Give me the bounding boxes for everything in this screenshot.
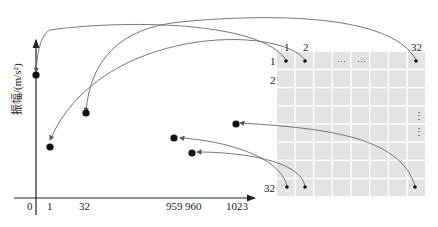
grid-cell	[296, 143, 313, 160]
grid-cell	[408, 143, 425, 160]
grid-cell	[389, 143, 406, 160]
x-tick-1023: 1023	[226, 201, 248, 212]
row-label-32: 32	[264, 183, 275, 194]
grid-cell	[333, 161, 350, 178]
grid-cell	[296, 70, 313, 87]
grid-cell	[352, 107, 369, 124]
grid-cell	[389, 88, 406, 105]
col-label-2: 2	[303, 42, 309, 53]
grid-cell	[370, 125, 387, 142]
row-label-1: 1	[270, 56, 276, 67]
grid-cell	[314, 107, 331, 124]
grid-cell	[333, 88, 350, 105]
grid-cell	[370, 107, 387, 124]
grid-cell	[370, 143, 387, 160]
y-axis-label: 振幅/(m/s²)	[8, 63, 24, 115]
diagram-canvas	[0, 0, 438, 227]
grid-cell	[277, 88, 294, 105]
grid-cell	[277, 107, 294, 124]
grid-cell	[370, 179, 387, 196]
point-32	[82, 109, 89, 116]
ellipsis-v-2: ⋮	[414, 126, 424, 137]
grid-cell	[389, 70, 406, 87]
grid-cell	[333, 107, 350, 124]
grid-cell	[314, 52, 331, 69]
x-tick-1: 1	[47, 201, 53, 212]
grid-cell	[333, 179, 350, 196]
grid-cell	[333, 143, 350, 160]
x-tick-960: 960	[185, 201, 202, 212]
grid-cell	[352, 70, 369, 87]
grid-cell	[352, 88, 369, 105]
grid-cell	[408, 88, 425, 105]
x-tick-959: 959	[166, 201, 183, 212]
grid-cell	[370, 88, 387, 105]
grid-cell	[333, 70, 350, 87]
grid-cell	[389, 107, 406, 124]
grid-cell	[352, 125, 369, 142]
point-959	[170, 134, 177, 141]
grid-cell	[296, 161, 313, 178]
col-label-1: 1	[284, 42, 290, 53]
point-0	[32, 71, 39, 78]
grid-cell	[314, 125, 331, 142]
data-grid	[277, 52, 425, 196]
point-1023	[232, 120, 239, 127]
col-label-32: 32	[411, 42, 422, 53]
grid-cell	[389, 179, 406, 196]
grid-cell	[370, 161, 387, 178]
ellipsis-h-2: ···	[357, 56, 366, 67]
grid-cell	[314, 179, 331, 196]
grid-cell	[370, 70, 387, 87]
grid-cell	[352, 179, 369, 196]
grid-cell	[296, 88, 313, 105]
grid-cell	[314, 143, 331, 160]
grid-cell	[314, 88, 331, 105]
grid-cell	[352, 143, 369, 160]
grid-cell	[314, 70, 331, 87]
grid-cell	[389, 125, 406, 142]
grid-cell	[277, 70, 294, 87]
grid-cell	[277, 143, 294, 160]
grid-cell	[314, 161, 331, 178]
grid-cell	[408, 70, 425, 87]
grid-cell	[370, 52, 387, 69]
x-tick-0: 0	[27, 201, 33, 212]
x-tick-32: 32	[79, 201, 90, 212]
ellipsis-v-1: ⋮	[414, 110, 424, 121]
ellipsis-h-1: ···	[337, 56, 346, 67]
grid-cell	[296, 107, 313, 124]
grid-cell	[389, 161, 406, 178]
grid-cell	[389, 52, 406, 69]
grid-cell	[352, 161, 369, 178]
point-960	[188, 149, 195, 156]
point-1	[46, 143, 53, 150]
plotted-points	[32, 71, 239, 156]
row-label-2: 2	[270, 75, 276, 86]
